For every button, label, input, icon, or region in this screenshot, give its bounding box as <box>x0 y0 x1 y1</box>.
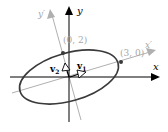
point-3-0 <box>119 60 123 64</box>
point-label-0-2: (0, 2) <box>63 35 87 45</box>
v2-label: v2 <box>49 64 59 75</box>
point-0-2 <box>61 51 65 55</box>
x-axis-arrow-icon <box>151 73 160 81</box>
y-axis-label: y <box>76 5 83 16</box>
v1-label: v1 <box>76 61 86 72</box>
point-label-3-0: (3, 0) <box>120 48 144 58</box>
y-axis-arrow-icon <box>65 6 73 15</box>
standard-axes <box>10 6 160 122</box>
x-prime-label: x′ <box>145 40 152 50</box>
ellipse-diagram: y x y′ x′ (0, 2) (3, 0) v1 v2 <box>0 0 168 132</box>
x-axis-label: x <box>153 61 159 72</box>
y-prime-label: y′ <box>37 9 45 19</box>
y-prime-arrow-icon <box>47 9 55 19</box>
